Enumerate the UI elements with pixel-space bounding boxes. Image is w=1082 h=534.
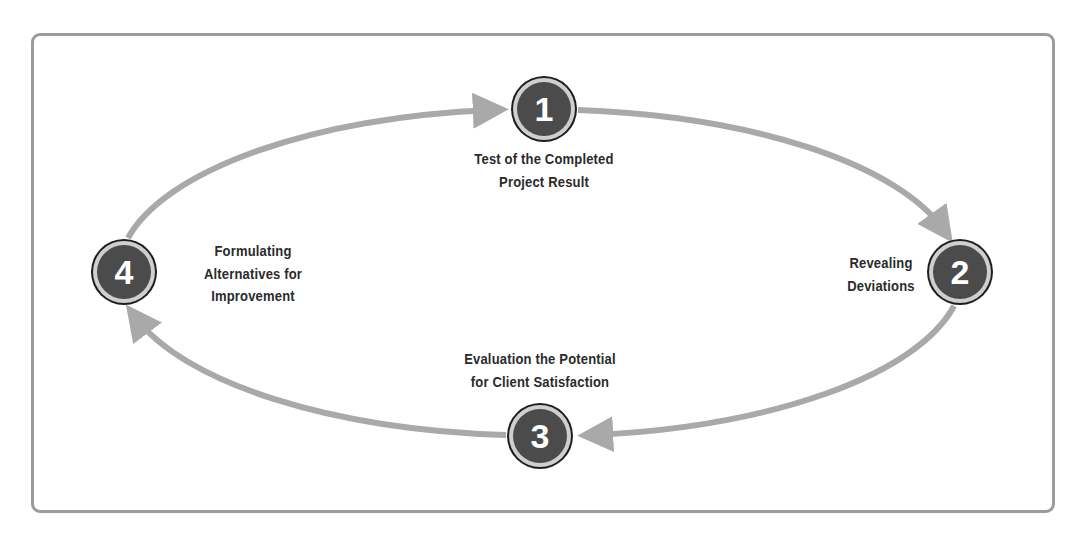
arrow-1-to-2 [578, 110, 943, 229]
cycle-diagram: 1 2 3 4 [0, 0, 1082, 534]
step-4-number: 4 [115, 253, 134, 291]
step-4-label: Formulating Alternatives for Improvement [204, 240, 302, 308]
step-2-node: 2 [927, 239, 993, 305]
step-4-label-line-2: Alternatives for [204, 263, 302, 286]
arrow-4-to-1 [128, 110, 492, 238]
step-1-label-line-1: Test of the Completed [474, 148, 613, 171]
step-1-label-line-2: Project Result [474, 171, 613, 194]
step-2-label-line-2: Deviations [847, 275, 915, 298]
arrow-3-to-4 [136, 318, 506, 435]
step-3-number: 3 [531, 417, 550, 455]
step-4-label-line-1: Formulating [204, 240, 302, 263]
step-3-label: Evaluation the Potential for Client Sati… [464, 348, 616, 393]
arrow-2-to-3 [594, 306, 954, 435]
step-1-number: 1 [535, 90, 554, 128]
step-3-label-line-1: Evaluation the Potential [464, 348, 616, 371]
step-2-label-line-1: Revealing [847, 252, 915, 275]
step-3-node: 3 [507, 403, 573, 469]
step-2-label: Revealing Deviations [847, 252, 915, 297]
step-4-node: 4 [91, 239, 157, 305]
step-4-label-line-3: Improvement [204, 285, 302, 308]
step-3-label-line-2: for Client Satisfaction [464, 371, 616, 394]
step-2-number: 2 [951, 253, 970, 291]
step-1-label: Test of the Completed Project Result [474, 148, 613, 193]
step-1-node: 1 [511, 76, 577, 142]
